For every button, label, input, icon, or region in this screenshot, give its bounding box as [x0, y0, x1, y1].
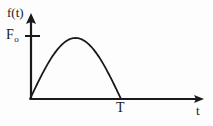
plot-canvas: [0, 0, 213, 126]
amplitude-label-subscript: o: [14, 34, 19, 44]
y-axis-label: f(t): [7, 6, 24, 19]
amplitude-label: Fo: [6, 28, 18, 42]
amplitude-label-base: F: [6, 27, 14, 42]
period-tick-label: T: [116, 101, 125, 115]
x-axis-label: t: [196, 104, 200, 117]
force-pulse-figure: f(t) Fo T t: [0, 0, 213, 126]
force-pulse-polyline: [30, 38, 121, 99]
